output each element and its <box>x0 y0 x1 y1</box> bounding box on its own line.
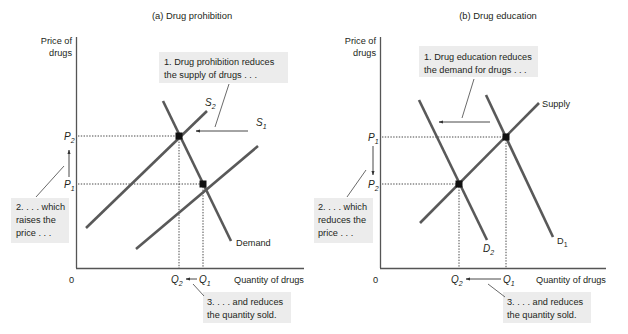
panel-a-callout-1-leader <box>215 84 229 127</box>
panel-a-callout-3-line2: the quantity sold. <box>207 310 276 320</box>
panel-a-initial-equilibrium-point <box>200 181 207 188</box>
panel-b-callout-2-line2: reduces the <box>318 215 366 225</box>
panel-a-callout-3-line1: 3. . . . and reduces <box>207 297 284 307</box>
panel-b-new-equilibrium-point <box>456 181 463 188</box>
panel-b-d1-label: D1 <box>557 236 568 248</box>
panel-b-callout-1-leader <box>462 79 474 118</box>
panel-b-initial-equilibrium-point <box>503 134 510 141</box>
panel-b-demand-d2-line <box>419 100 487 240</box>
panel-a-demand-label: Demand <box>236 238 271 248</box>
panel-b-x-axis-label: Quantity of drugs <box>536 275 606 285</box>
panel-a-s2-label: S2 <box>205 97 216 110</box>
panel-b-demand-d1-line <box>486 95 553 237</box>
panel-a-new-equilibrium-point <box>176 133 183 140</box>
panel-a-supply-s2-line <box>86 111 207 228</box>
panel-b-callout-1-line2: the demand for drugs . . . <box>424 65 527 75</box>
panel-b-y-axis-label-line1: Price of <box>345 36 377 46</box>
panel-b-q2-label: Q2 <box>451 274 463 287</box>
panel-a-callout-2-line3: price . . . <box>16 228 51 238</box>
panel-a-callout-1-line2: the supply of drugs . . . <box>164 70 257 80</box>
panel-b-supply-line <box>420 103 539 223</box>
panel-b-origin-label: 0 <box>373 275 378 285</box>
panel-b-callout-1-line1: 1. Drug education reduces <box>424 52 532 62</box>
panel-a-callout-2-line1: 2. . . . which <box>16 202 65 212</box>
panel-a-callout-1-line1: 1. Drug prohibition reduces <box>164 57 275 67</box>
panel-b-callout-2-line1: 2. . . . which <box>318 202 367 212</box>
panel-a-callout-2-leader <box>36 166 64 197</box>
panel-a-p1-label: P1 <box>64 179 75 192</box>
panel-drug-prohibition: (a) Drug prohibition Price of drugs S2 S… <box>11 10 304 323</box>
panel-b-callout-3-line2: the quantity sold. <box>507 310 576 320</box>
panel-b-supply-label: Supply <box>542 99 570 109</box>
panel-b-callout-2-leader <box>347 170 366 197</box>
panel-a-callout-3-leader <box>193 284 204 296</box>
panel-a-p2-label: P2 <box>64 131 75 144</box>
panel-drug-education: (b) Drug education Price of drugs Supply… <box>314 10 606 323</box>
panel-a-q1-label: Q1 <box>199 274 211 287</box>
panel-b-d2-label: D2 <box>483 243 494 256</box>
panel-a-y-axis-label-line1: Price of <box>41 36 73 46</box>
panel-a-q2-label: Q2 <box>171 274 183 287</box>
panel-a-x-axis-label: Quantity of drugs <box>234 275 304 285</box>
panel-b-callout-2-line3: price . . . <box>318 228 353 238</box>
panel-b-title: (b) Drug education <box>459 10 537 21</box>
panel-a-y-axis-label-line2: drugs <box>49 48 72 58</box>
panel-b-callout-3-leader <box>488 284 505 297</box>
panel-b-y-axis-label-line2: drugs <box>353 48 376 58</box>
panel-a-origin-label: 0 <box>69 275 74 285</box>
panel-a-callout-2-line2: raises the <box>16 215 56 225</box>
panel-b-q1-label: Q1 <box>503 274 515 287</box>
panel-a-title: (a) Drug prohibition <box>152 10 232 21</box>
panel-b-callout-3-line1: 3. . . . and reduces <box>507 297 584 307</box>
panel-a-s1-label: S1 <box>256 117 267 130</box>
panel-b-p2-label: P2 <box>368 179 379 192</box>
panel-b-p1-label: P1 <box>368 132 379 145</box>
